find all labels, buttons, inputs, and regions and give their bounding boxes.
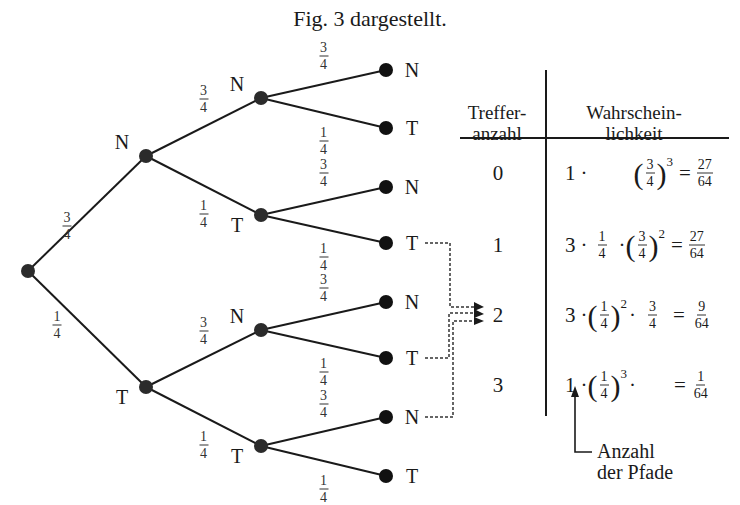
paths-annotation: Anzahl der Pfade [597, 441, 673, 483]
tree-node [379, 236, 393, 250]
tree-edge [261, 446, 386, 476]
row-2-count: 2 [493, 303, 504, 328]
node-label: T [406, 233, 418, 253]
row-1-expression: 3· 14 · (34)2 = 2764 [565, 230, 707, 261]
branch-probability: 14 [319, 357, 328, 388]
branch-probability: 34 [319, 273, 328, 304]
branch-probability: 14 [199, 429, 208, 460]
branch-probability: 34 [319, 388, 328, 419]
node-label: T [406, 118, 418, 138]
node-label: T [406, 348, 418, 368]
node-label: N [405, 292, 419, 312]
branch-probability: 34 [319, 158, 328, 189]
branch-probability: 14 [319, 242, 328, 273]
tree-node [254, 208, 268, 222]
node-label: T [231, 446, 243, 466]
tree-edge [261, 98, 386, 128]
tree-node [21, 264, 35, 278]
paths-annotation-arrow [575, 395, 592, 452]
row-1-count: 1 [493, 233, 504, 258]
tree-node [254, 323, 268, 337]
node-label: N [115, 132, 129, 152]
tree-edge [261, 70, 386, 98]
row-3-expression: 1· (14)3 · = 164 [565, 370, 710, 401]
tree-edge [261, 215, 386, 243]
tree-node [379, 351, 393, 365]
tree-node [379, 121, 393, 135]
node-label: T [406, 466, 418, 486]
tree-node [139, 380, 153, 394]
tree-edge [28, 271, 146, 387]
node-label: N [405, 60, 419, 80]
tree-edge [28, 156, 146, 271]
node-label: T [116, 387, 128, 407]
tree-edge [261, 417, 386, 446]
node-label: N [405, 177, 419, 197]
header-hit-count: Treffer- anzahl [468, 102, 527, 144]
tree-node [254, 439, 268, 453]
row-0-expression: 1· (34)3 = 2764 [565, 158, 715, 189]
node-label: N [230, 306, 244, 326]
row-2-expression: 3· (14)2 · 34 = 964 [565, 300, 711, 331]
node-label: N [230, 74, 244, 94]
branch-probability: 34 [63, 210, 72, 241]
tree-node [379, 63, 393, 77]
branch-probability: 34 [199, 84, 208, 115]
branch-probability: 14 [53, 310, 62, 341]
tree-node [379, 180, 393, 194]
row-0-count: 0 [493, 161, 504, 186]
tree-node [379, 469, 393, 483]
branch-probability: 14 [199, 198, 208, 229]
node-label: T [231, 215, 243, 235]
tree-node [379, 410, 393, 424]
tree-edge [261, 302, 386, 330]
tree-edges [28, 70, 386, 476]
tree-node [254, 91, 268, 105]
dotted-connectors [425, 243, 476, 417]
branch-probability: 34 [199, 315, 208, 346]
tree-edge [261, 187, 386, 215]
tree-edge [261, 330, 386, 358]
tree-node [379, 295, 393, 309]
branch-probability: 14 [319, 474, 328, 505]
node-label: N [405, 407, 419, 427]
row-3-count: 3 [493, 373, 504, 398]
arrow-heads [474, 302, 484, 325]
branch-probability: 14 [319, 126, 328, 157]
branch-probability: 34 [319, 41, 328, 72]
header-probability: Wahrschein- lichkeit [586, 102, 682, 144]
tree-node [139, 149, 153, 163]
